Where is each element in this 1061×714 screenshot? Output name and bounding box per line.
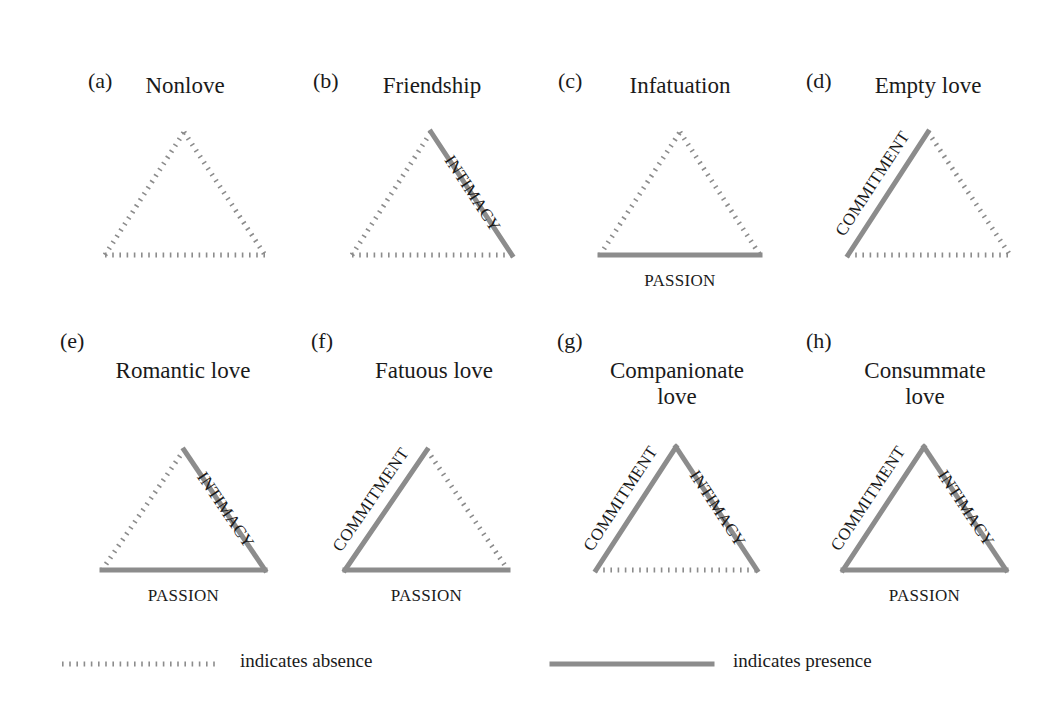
panel-title-line: Nonlove (75, 73, 295, 99)
intimacy-label: INTIMACY (193, 468, 258, 551)
triangle-panel-d: COMMITMENT (832, 127, 1010, 255)
passion-label: PASSION (889, 586, 960, 605)
intimacy-label: INTIMACY (934, 467, 998, 550)
panel-title-line: love (567, 384, 787, 410)
panel-letter: (f) (311, 330, 333, 352)
triangle-panel-b: INTIMACY (352, 132, 512, 255)
triangle-panel-a (105, 132, 265, 255)
intimacy-label: INTIMACY (441, 152, 505, 235)
intimacy-label: INTIMACY (686, 467, 750, 550)
panel-letter: (e) (60, 330, 84, 352)
commitment-edge-absent (352, 132, 431, 255)
panel-title-line: Companionate (567, 358, 787, 384)
panel-title-line: Romantic love (73, 358, 293, 384)
commitment-label: COMMITMENT (832, 127, 914, 239)
panel-title-line: love (815, 384, 1035, 410)
panel-title: Fatuous love (324, 358, 544, 384)
intimacy-edge-absent (427, 450, 508, 570)
panel-title: Romantic love (73, 358, 293, 384)
triangle-panel-c: PASSION (600, 132, 760, 290)
panel-letter: (h) (806, 330, 832, 352)
intimacy-edge-absent (928, 132, 1010, 255)
commitment-label: COMMITMENT (580, 442, 662, 554)
intimacy-edge-absent (184, 132, 265, 255)
triangle-panel-h: COMMITMENTINTIMACYPASSION (827, 442, 1006, 605)
passion-label: PASSION (644, 271, 715, 290)
panel-title-line: Fatuous love (324, 358, 544, 384)
legend-presence-label: indicates presence (733, 651, 872, 670)
triangle-panel-g: COMMITMENTINTIMACY (580, 442, 757, 570)
panel-title: Friendship (322, 73, 542, 99)
commitment-edge-absent (600, 132, 680, 255)
triangle-panel-f: COMMITMENTPASSION (329, 444, 508, 605)
passion-label: PASSION (148, 586, 219, 605)
intimacy-edge-absent (680, 132, 760, 255)
panel-title-line: Friendship (322, 73, 542, 99)
commitment-edge-absent (102, 450, 184, 570)
panel-title: Infatuation (570, 73, 790, 99)
love-triangle-diagram: INTIMACYPASSIONCOMMITMENTINTIMACYPASSION… (0, 0, 1061, 714)
panel-title: Companionatelove (567, 358, 787, 410)
panel-title: Consummatelove (815, 358, 1035, 410)
panel-title: Empty love (818, 73, 1038, 99)
passion-label: PASSION (391, 586, 462, 605)
panel-title-line: Infatuation (570, 73, 790, 99)
commitment-label: COMMITMENT (827, 442, 910, 554)
panel-letter: (g) (557, 330, 583, 352)
panel-title-line: Empty love (818, 73, 1038, 99)
commitment-edge-absent (105, 132, 184, 255)
legend-absence-label: indicates absence (240, 651, 372, 670)
panel-title-line: Consummate (815, 358, 1035, 384)
triangle-panel-e: INTIMACYPASSION (102, 450, 265, 605)
commitment-label: COMMITMENT (329, 444, 413, 555)
panel-title: Nonlove (75, 73, 295, 99)
